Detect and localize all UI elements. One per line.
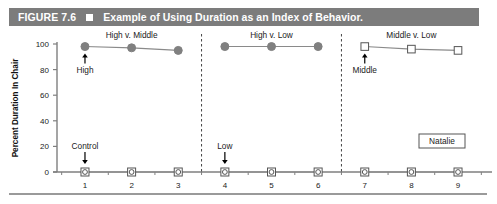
- filled-square-icon: [86, 14, 93, 21]
- y-axis-title: Percent Duration In Chair: [11, 58, 20, 158]
- data-point-filled-circle: [268, 43, 276, 51]
- data-point-open-square: [454, 47, 462, 55]
- annotation-arrow-head-down: [222, 160, 228, 164]
- annotation-arrow-head-down: [82, 160, 88, 164]
- data-point-filled-circle: [314, 43, 322, 51]
- annotation-label: Control: [72, 141, 99, 151]
- data-point-filled-circle: [81, 43, 89, 51]
- phase-label: High v. Low: [250, 30, 294, 40]
- figure-container: FIGURE 7.6 Example of Using Duration as …: [0, 0, 497, 204]
- x-tick-label: 9: [456, 181, 461, 188]
- phase-label: High v. Middle: [106, 30, 158, 40]
- annotation-label: High: [76, 65, 93, 75]
- figure-caption-title: Example of Using Duration as an Index of…: [103, 11, 363, 23]
- x-tick-label: 5: [269, 181, 274, 188]
- x-tick-label: 4: [223, 181, 228, 188]
- y-tick-label: 60: [40, 91, 49, 100]
- subject-name-label: Natalie: [429, 136, 455, 146]
- figure-caption-bar: FIGURE 7.6 Example of Using Duration as …: [9, 8, 479, 26]
- annotation-label: Low: [217, 141, 233, 151]
- phase-label: Middle v. Low: [386, 30, 437, 40]
- data-point-filled-circle: [128, 44, 136, 52]
- data-point-open-square: [361, 43, 369, 51]
- data-point-filled-circle: [174, 46, 182, 54]
- figure-bottom-rule: [9, 193, 487, 195]
- y-tick-label: 100: [36, 40, 50, 49]
- annotation-arrow-head-up: [82, 54, 88, 58]
- x-tick-label: 3: [176, 181, 181, 188]
- data-point-open-square: [408, 45, 416, 53]
- y-tick-label: 0: [45, 168, 50, 177]
- x-tick-label: 2: [129, 181, 134, 188]
- y-tick-label: 20: [40, 142, 49, 151]
- annotation-arrow-head-up: [362, 54, 368, 58]
- y-tick-label: 80: [40, 66, 49, 75]
- chart-svg: 020406080100Percent Duration In Chair123…: [0, 28, 497, 188]
- x-tick-label: 7: [363, 181, 368, 188]
- x-tick-label: 8: [409, 181, 414, 188]
- data-point-filled-circle: [221, 43, 229, 51]
- x-tick-label: 6: [316, 181, 321, 188]
- figure-number: FIGURE 7.6: [18, 11, 76, 23]
- annotation-label: Middle: [353, 65, 378, 75]
- x-tick-label: 1: [83, 181, 88, 188]
- y-tick-label: 40: [40, 117, 49, 126]
- chart-plot-area: 020406080100Percent Duration In Chair123…: [0, 28, 497, 188]
